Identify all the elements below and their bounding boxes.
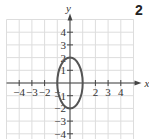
y-tick-label: 4 — [61, 26, 67, 38]
x-axis-label: x — [144, 77, 150, 89]
x-tick-label: −2 — [39, 86, 51, 98]
y-tick-label: −3 — [54, 115, 66, 127]
x-tick-label: 4 — [118, 86, 124, 98]
y-tick-label: 3 — [61, 39, 67, 51]
y-tick-label: −2 — [54, 102, 66, 114]
x-tick-label: 2 — [93, 86, 99, 98]
y-axis-label: y — [65, 2, 71, 14]
x-tick-label: 3 — [105, 86, 111, 98]
x-tick-label: −4 — [13, 86, 25, 98]
y-tick-label: −4 — [54, 128, 66, 139]
ellipse-graph: xy−4−3−2−2344321−1−2−3−4 — [0, 0, 149, 139]
x-tick-label: −3 — [26, 86, 38, 98]
